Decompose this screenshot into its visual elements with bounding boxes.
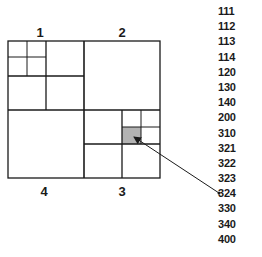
quadrant-label-3: 3: [118, 184, 125, 199]
quadrant-label-4: 4: [40, 184, 48, 199]
code-item: 113: [218, 34, 236, 49]
code-item: 321: [218, 141, 236, 156]
highlighted-cell: [122, 127, 141, 144]
code-item: 111: [218, 4, 236, 19]
code-item: 114: [218, 50, 236, 65]
code-item: 322: [218, 156, 236, 171]
code-item: 112: [218, 19, 236, 34]
code-item: 200: [218, 110, 236, 125]
code-item: 324: [218, 186, 236, 201]
code-item: 310: [218, 126, 236, 141]
code-item: 323: [218, 171, 236, 186]
code-item: 130: [218, 80, 236, 95]
pointer-arrow: [134, 137, 219, 193]
quadrant-label-1: 1: [36, 25, 43, 40]
code-item: 340: [218, 217, 236, 232]
quadrant-label-2: 2: [118, 25, 125, 40]
code-item: 400: [218, 232, 236, 247]
location-code-list: 111 112 113 114 120 130 140 200 310 321 …: [218, 4, 236, 247]
code-item: 120: [218, 65, 236, 80]
code-item: 140: [218, 95, 236, 110]
code-item: 330: [218, 201, 236, 216]
